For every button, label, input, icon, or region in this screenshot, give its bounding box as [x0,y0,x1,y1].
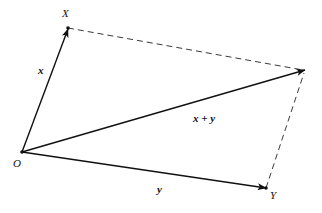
dashed-edge-x-to-sum [68,28,303,70]
point-label-x: X [61,7,70,19]
vertex-dot-origin [20,150,24,154]
point-label-origin: O [13,157,21,169]
dashed-edge-y-to-sum [266,73,304,188]
vector-label-y: y [155,183,162,195]
vertex-dot-x [66,26,70,30]
vector-diagram: O X Y x y x + y [0,0,322,213]
vector-diagram-canvas: O X Y x y x + y [0,0,322,213]
vector-y-arrow [22,152,266,188]
point-label-y: Y [270,189,278,201]
vertex-dot-y [264,186,268,190]
vector-x-arrow [22,29,68,152]
vector-label-x: x [37,64,44,76]
vector-x-plus-y-arrow [22,70,305,152]
vector-label-x-plus-y: x + y [192,112,215,124]
